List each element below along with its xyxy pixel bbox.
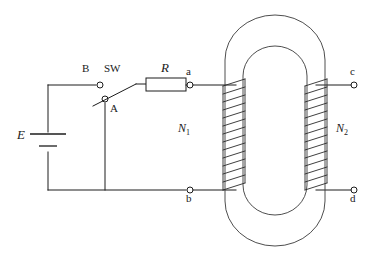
primary-turn [223, 143, 245, 150]
primary-winding-coil [223, 79, 245, 190]
primary-turns-label: N1 [178, 122, 190, 137]
switch-terminal-b-node[interactable] [97, 82, 103, 88]
primary-turn [223, 95, 245, 102]
terminal-a-node[interactable] [187, 82, 193, 88]
terminal-c-label: c [350, 66, 355, 77]
secondary-turn [305, 175, 327, 182]
secondary-turns-label: N2 [336, 122, 348, 137]
switch-label: SW [104, 63, 121, 74]
terminal-b-label: b [186, 193, 192, 204]
primary-turn [223, 159, 245, 166]
terminal-d-label: d [350, 193, 356, 204]
secondary-turn [305, 167, 327, 174]
secondary-turn [305, 143, 327, 150]
primary-turns-symbol: N [178, 121, 186, 135]
primary-turn [223, 103, 245, 110]
primary-turn [223, 127, 245, 134]
secondary-turn [305, 119, 327, 126]
primary-turns-subscript: 1 [186, 128, 190, 137]
secondary-turn [305, 111, 327, 118]
secondary-turn [305, 95, 327, 102]
secondary-turns-subscript: 2 [344, 128, 348, 137]
primary-turn [223, 151, 245, 158]
circuit-diagram: E B SW A R a b c d N1 N2 [0, 0, 376, 261]
core-outer-outline [225, 15, 325, 246]
secondary-turn [305, 87, 327, 94]
battery-label: E [17, 128, 25, 141]
core-inner-outline [243, 46, 307, 215]
transformer-core [225, 15, 325, 246]
primary-turn [223, 111, 245, 118]
primary-turn [223, 183, 245, 190]
switch-terminal-a-label: A [110, 103, 118, 114]
secondary-turn [305, 103, 327, 110]
secondary-turns-symbol: N [336, 121, 344, 135]
primary-turn [223, 167, 245, 174]
primary-turn [223, 87, 245, 94]
source-loop-wires [48, 85, 186, 190]
primary-turn [223, 175, 245, 182]
secondary-turn [305, 151, 327, 158]
terminal-c-node[interactable] [351, 82, 357, 88]
secondary-turn [305, 183, 327, 190]
switch-terminal-b-label: B [82, 63, 89, 74]
terminal-a-label: a [186, 66, 191, 77]
secondary-winding-coil [305, 79, 327, 190]
resistor-body [146, 78, 186, 91]
battery-symbol [30, 134, 66, 146]
primary-turn [223, 135, 245, 142]
secondary-turn [305, 127, 327, 134]
secondary-turn [305, 159, 327, 166]
resistor-label: R [161, 61, 169, 74]
secondary-turn [305, 135, 327, 142]
primary-turn [223, 119, 245, 126]
